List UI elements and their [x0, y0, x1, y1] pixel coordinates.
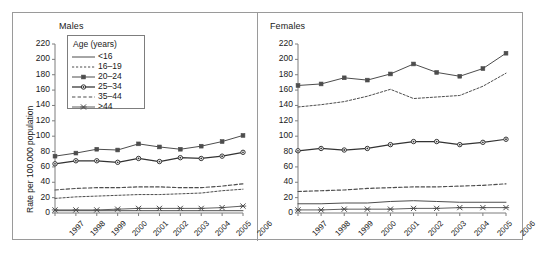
y-tick-label: 120	[268, 115, 293, 125]
legend-item-label: 20–24	[98, 71, 122, 81]
figure-container: Males Rate per 100,000 population 020406…	[12, 12, 523, 240]
y-tick-label: 100	[268, 130, 293, 140]
y-tick-label: 180	[268, 69, 293, 79]
y-tick-label: 20	[25, 192, 50, 202]
series-line	[298, 208, 506, 210]
y-tick-label: 20	[268, 192, 293, 202]
y-tick-label: 80	[268, 146, 293, 156]
legend-item-label: >44	[98, 101, 112, 111]
legend: Age (years) <1616–1920–2425–3435–44>44	[67, 35, 145, 109]
legend-title: Age (years)	[73, 39, 117, 49]
y-tick-label: 220	[25, 38, 50, 48]
series-line	[298, 184, 506, 192]
y-tick-label: 100	[25, 130, 50, 140]
y-tick-label: 220	[268, 38, 293, 48]
series-line	[55, 135, 243, 156]
y-tick-label: 200	[25, 53, 50, 63]
y-tick-label: 160	[268, 84, 293, 94]
legend-item-label: 16–19	[98, 61, 122, 71]
y-tick-label: 80	[25, 146, 50, 156]
y-tick-label: 0	[268, 207, 293, 217]
series-line	[55, 189, 243, 198]
y-tick-label: 60	[25, 161, 50, 171]
y-tick-label: 0	[25, 207, 50, 217]
series-line	[298, 73, 506, 107]
series-line	[298, 53, 506, 85]
legend-item-label: 25–34	[98, 81, 122, 91]
series-line	[298, 139, 506, 151]
series-line	[55, 184, 243, 190]
series-line	[298, 201, 506, 204]
series-line	[55, 206, 243, 210]
legend-swatch-cross-icon	[70, 101, 97, 113]
y-tick-label: 40	[25, 176, 50, 186]
series-line	[55, 152, 243, 164]
y-tick-label: 140	[268, 99, 293, 109]
chart-panel-females: Females 02040608010012014016018020022019…	[258, 13, 524, 241]
y-tick-label: 160	[25, 84, 50, 94]
y-tick-label: 40	[268, 176, 293, 186]
chart-panel-males: Males Rate per 100,000 population 020406…	[13, 13, 257, 241]
y-tick-label: 180	[25, 69, 50, 79]
y-tick-label: 200	[268, 53, 293, 63]
legend-item-label: 35–44	[98, 91, 122, 101]
y-tick-label: 60	[268, 161, 293, 171]
legend-item-label: <16	[98, 51, 112, 61]
legend-item: >44	[68, 101, 144, 113]
y-tick-label: 140	[25, 99, 50, 109]
y-tick-label: 120	[25, 115, 50, 125]
plot-area-females: 0204060801001201401601802002201997199819…	[258, 13, 524, 241]
